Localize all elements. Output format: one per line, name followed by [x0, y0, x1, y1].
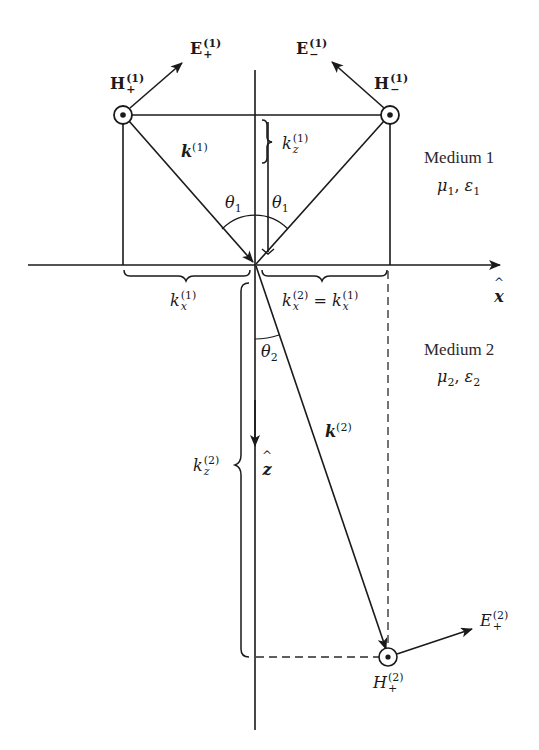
- label-sub: +: [388, 683, 404, 694]
- label-base: θ: [261, 342, 271, 361]
- label-base: H: [110, 74, 125, 93]
- label-kz2: k(2)z: [193, 455, 219, 477]
- label-sub: z: [204, 466, 220, 477]
- label-supsub: (1)−: [390, 73, 408, 95]
- label-base: E: [296, 39, 308, 58]
- label-sub: +: [493, 621, 509, 632]
- comma: ,: [454, 176, 464, 195]
- medium2-name: Medium 2: [424, 340, 494, 360]
- transmitted-k2-vector: [256, 266, 386, 649]
- label-base: θ: [272, 193, 282, 212]
- x-axis-label: ^ x: [494, 279, 504, 306]
- label-theta1-right: θ1: [272, 193, 289, 212]
- H-plus-2-symbol: [379, 648, 397, 666]
- epsilon-sub: 2: [473, 376, 480, 389]
- E-plus-2-arrow: [397, 629, 472, 654]
- mu-symbol: μ: [437, 176, 447, 195]
- label-sub: x: [343, 301, 359, 312]
- label-E-plus-2: E(2)+: [480, 610, 508, 632]
- label-supsub: (1)x: [343, 290, 359, 312]
- label-H-plus-1: H(1)+: [110, 73, 144, 95]
- label-base: k: [282, 291, 292, 310]
- label-sub: +: [203, 49, 221, 60]
- label-base: k: [282, 134, 292, 153]
- comma: ,: [454, 367, 464, 386]
- label-k1: k(1): [181, 142, 208, 161]
- label-base: k: [193, 456, 203, 475]
- label-kz1: k(1)z: [282, 133, 308, 155]
- label-sup: (2): [336, 421, 352, 434]
- z-letter: z: [262, 460, 272, 479]
- label-sub: x: [293, 301, 309, 312]
- label-base: E: [480, 611, 492, 630]
- label-k2: k(2): [325, 422, 352, 441]
- medium2-params: μ2, ε2: [437, 367, 480, 386]
- label-supsub: (1)+: [126, 73, 144, 95]
- mu-symbol: μ: [437, 367, 447, 386]
- label-sup: (1): [192, 141, 208, 154]
- z-axis-label: ^ z: [262, 452, 272, 479]
- label-supsub: (1)x: [181, 290, 197, 312]
- kz2-brace: [235, 283, 249, 657]
- label-base: E: [190, 39, 202, 58]
- label-theta2: θ2: [261, 342, 278, 361]
- epsilon-sub: 1: [473, 185, 480, 198]
- label-sub: −: [390, 84, 408, 95]
- equals-sign: =: [313, 291, 326, 310]
- x-hat: ^: [494, 279, 504, 287]
- label-base: H: [374, 74, 389, 93]
- label-supsub: (1)−: [309, 38, 327, 60]
- label-E-minus-1: E(1)−: [296, 38, 327, 60]
- label-H-minus-1: H(1)−: [374, 73, 408, 95]
- label-sub: +: [126, 84, 144, 95]
- kx1-brace: [124, 270, 250, 281]
- kx2-brace: [262, 270, 387, 281]
- kz1-brace: [262, 120, 272, 163]
- x-letter: x: [494, 287, 504, 306]
- label-base: H: [373, 673, 387, 692]
- label-sub: 2: [271, 351, 278, 364]
- label-base: k: [332, 291, 342, 310]
- medium1-params: μ1, ε1: [437, 176, 480, 195]
- epsilon-symbol: ε: [465, 176, 474, 195]
- label-sub: 1: [235, 202, 242, 215]
- label-base: k: [170, 291, 180, 310]
- label-base: θ: [225, 193, 235, 212]
- label-sub: −: [309, 49, 327, 60]
- H-plus-1-symbol: [114, 106, 132, 124]
- z-hat: ^: [262, 452, 272, 460]
- label-base: k: [181, 142, 192, 161]
- label-supsub: (1)+: [203, 38, 221, 60]
- label-theta1-left: θ1: [225, 193, 242, 212]
- epsilon-symbol: ε: [465, 367, 474, 386]
- label-E-plus-1: E(1)+: [190, 38, 221, 60]
- label-supsub: (2)+: [493, 610, 509, 632]
- label-sub: 1: [282, 202, 289, 215]
- label-supsub: (2)+: [388, 672, 404, 694]
- label-kx2-equals-kx1: k(2)x = k(1)x: [282, 290, 358, 312]
- label-sub: z: [293, 144, 309, 155]
- label-kx1: k(1)x: [170, 290, 196, 312]
- label-base: k: [325, 422, 336, 441]
- H-minus-1-symbol: [381, 106, 399, 124]
- medium1-name: Medium 1: [424, 148, 494, 168]
- theta2-arc: [255, 335, 279, 339]
- label-sub: x: [181, 301, 197, 312]
- label-supsub: (1)z: [293, 133, 309, 155]
- label-supsub: (2)x: [293, 290, 309, 312]
- label-H-plus-2: H(2)+: [373, 672, 404, 694]
- label-supsub: (2)z: [204, 455, 220, 477]
